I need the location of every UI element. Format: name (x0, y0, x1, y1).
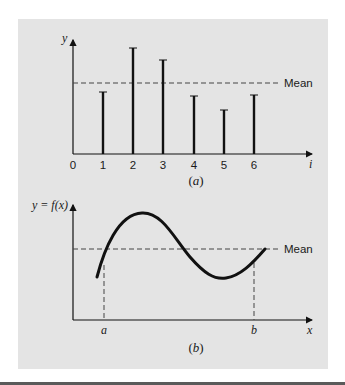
svg-text:6: 6 (251, 159, 257, 171)
caption-b: (b) (188, 340, 203, 355)
mean-label-b: Mean (284, 243, 313, 255)
a-label: a (101, 323, 107, 337)
svg-text:4: 4 (191, 159, 198, 171)
y-axis-label-a: y (61, 31, 68, 45)
panel-a: y i Mean 0 1 2 3 4 5 6 (a) (61, 31, 313, 188)
function-curve (97, 213, 265, 278)
mean-label-a: Mean (284, 77, 313, 89)
svg-text:2: 2 (130, 159, 136, 171)
svg-text:1: 1 (100, 159, 106, 171)
svg-text:5: 5 (221, 159, 227, 171)
x-axis-label-b: x (306, 323, 313, 337)
figure-svg: y i Mean 0 1 2 3 4 5 6 (a) (0, 0, 345, 385)
x-axis-label-a: i (309, 157, 312, 171)
b-label: b (251, 323, 257, 337)
stems (99, 48, 258, 154)
svg-text:3: 3 (160, 159, 166, 171)
x-ticks-a: 0 1 2 3 4 5 6 (70, 159, 257, 171)
caption-a: (a) (188, 173, 203, 188)
y-axis-label-b: y = f(x) (31, 198, 68, 212)
panel-b: y = f(x) x Mean a b (b) (31, 198, 313, 355)
svg-text:0: 0 (70, 159, 76, 171)
